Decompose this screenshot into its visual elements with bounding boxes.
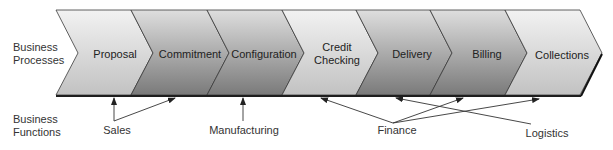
chevron-band bbox=[0, 0, 613, 150]
stage-collections: Collections bbox=[535, 49, 589, 62]
function-finance: Finance bbox=[377, 124, 416, 137]
function-sales: Sales bbox=[103, 124, 131, 137]
stage-proposal: Proposal bbox=[93, 48, 136, 61]
stage-label-text: Credit bbox=[314, 41, 360, 54]
sales-arrows bbox=[114, 98, 175, 121]
row-label-line: Functions bbox=[13, 126, 61, 139]
stage-credit-checking: Credit Checking bbox=[314, 41, 360, 67]
stage-delivery: Delivery bbox=[392, 48, 432, 61]
business-functions-label: Business Functions bbox=[13, 113, 61, 139]
stage-label-text: Collections bbox=[535, 49, 589, 62]
business-process-diagram: Business Processes Business Functions Pr… bbox=[0, 0, 613, 150]
stage-label-text: Proposal bbox=[93, 48, 136, 61]
logistics-arrow bbox=[396, 98, 531, 124]
row-label-line: Business bbox=[13, 41, 64, 54]
stage-label-text: Commitment bbox=[159, 48, 221, 61]
row-label-line: Business bbox=[13, 113, 61, 126]
stage-billing: Billing bbox=[472, 48, 501, 61]
function-logistics: Logistics bbox=[526, 127, 569, 140]
business-processes-label: Business Processes bbox=[13, 41, 64, 67]
stage-commitment: Commitment bbox=[159, 48, 221, 61]
row-label-line: Processes bbox=[13, 54, 64, 67]
stage-label-text: Configuration bbox=[231, 48, 296, 61]
stage-label-text: Billing bbox=[472, 48, 501, 61]
function-manufacturing: Manufacturing bbox=[209, 124, 279, 137]
stage-configuration: Configuration bbox=[231, 48, 296, 61]
stage-label-text: Delivery bbox=[392, 48, 432, 61]
stage-label-text: Checking bbox=[314, 54, 360, 67]
